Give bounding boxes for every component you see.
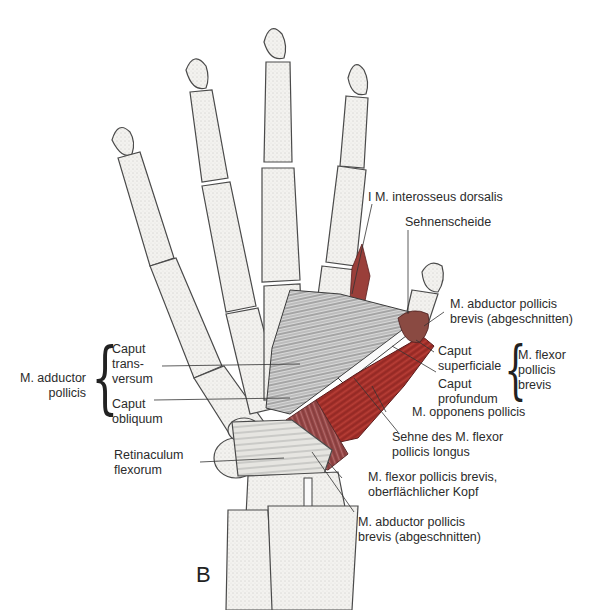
anatomy-figure: I M. interosseus dorsalis Sehnenscheide …	[0, 0, 593, 610]
panel-letter: B	[196, 562, 211, 588]
label-sehnenscheide: Sehnenscheide	[405, 215, 491, 230]
label-caput-obliquum: Caput obliquum	[112, 397, 163, 427]
label-abductor-pollicis-brevis-top: M. abductor pollicis brevis (abgeschnitt…	[450, 297, 573, 327]
forearm-bones	[226, 506, 358, 610]
label-caput-profundum: Caput profundum	[438, 377, 498, 407]
label-flexor-pollicis-brevis-group: M. flexor pollicis brevis	[518, 348, 566, 393]
label-abductor-pollicis-brevis-bottom: M. abductor pollicis brevis (abgeschnitt…	[358, 515, 481, 545]
label-interosseus-dorsalis: I M. interosseus dorsalis	[368, 190, 503, 205]
label-sehne-flexor-longus: Sehne des M. flexor pollicis longus	[392, 430, 503, 460]
label-caput-transversum: Caput trans- versum	[112, 342, 153, 387]
label-flexor-brevis-superficial: M. flexor pollicis brevis, oberflächlich…	[368, 470, 497, 500]
label-retinaculum-flexorum: Retinaculum flexorum	[114, 448, 183, 478]
label-adductor-pollicis-group: M. adductor pollicis	[20, 371, 86, 401]
label-opponens-pollicis: M. opponens pollicis	[412, 405, 525, 420]
label-caput-superficiale: Caput superficiale	[438, 344, 501, 374]
